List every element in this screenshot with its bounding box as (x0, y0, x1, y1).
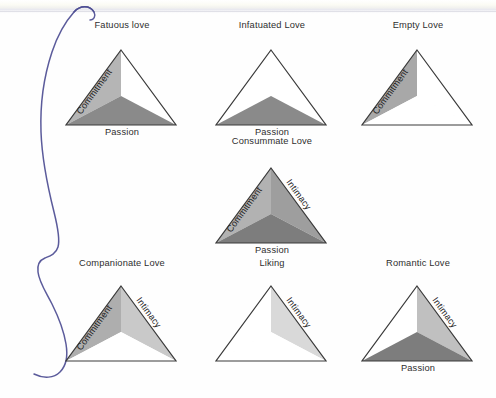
triangle-companionate-love: Commitment Intimacy (52, 258, 192, 376)
scan-line (0, 11, 496, 12)
figure-page: Fatuous love Commitment Passion Infatuat… (0, 0, 496, 398)
figure-consummate-love: Consummate Love Commitment Intimacy Pass… (202, 136, 342, 258)
triangle-liking: Intimacy (202, 258, 342, 376)
footer-caption (48, 386, 448, 396)
figure-companionate-love: Companionate Love Commitment Intimacy (52, 258, 192, 376)
figure-liking: Liking Intimacy (202, 258, 342, 376)
triangle-infatuated-love (202, 20, 342, 138)
figure-empty-love: Empty Love Commitment (348, 20, 488, 138)
triangle-empty-love: Commitment (348, 20, 488, 138)
triangle-consummate-love: Commitment Intimacy (202, 136, 342, 258)
triangle-fatuous-love: Commitment (52, 20, 192, 138)
base-label-passion: Passion (348, 363, 488, 374)
figure-fatuous-love: Fatuous love Commitment Passion (52, 20, 192, 138)
figure-romantic-love: Romantic Love Intimacy Passion (348, 258, 488, 376)
figure-infatuated-love: Infatuated Love Passion (202, 20, 342, 138)
triangle-romantic-love: Intimacy (348, 258, 488, 376)
base-label-passion: Passion (52, 127, 192, 138)
base-label-passion: Passion (202, 245, 342, 256)
